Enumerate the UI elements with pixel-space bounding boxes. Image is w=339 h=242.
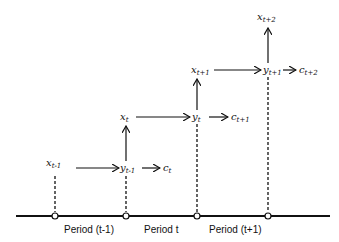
label-x-t+2: xt+2 — [257, 11, 276, 24]
time-point-4 — [265, 213, 271, 219]
label-y-t: yt — [191, 111, 201, 124]
label-y-t-1: yt-1 — [119, 162, 135, 175]
label-x-t: xt — [120, 111, 129, 124]
period-label-t: Period t — [144, 224, 179, 235]
label-x-t+1: xt+1 — [191, 64, 210, 77]
label-c-t+2: ct+2 — [299, 64, 318, 77]
period-label-t+1: Period (t+1) — [209, 224, 262, 235]
period-label-t-1: Period (t-1) — [64, 224, 114, 235]
time-point-3 — [194, 213, 200, 219]
label-y-t+1: yt+1 — [262, 64, 282, 77]
time-point-2 — [123, 213, 129, 219]
label-x-t-1: xt-1 — [46, 157, 61, 170]
period-flow-diagram: xt-1 yt-1 ct xt yt ct+1 xt+1 yt+1 ct+2 x… — [0, 0, 339, 242]
label-c-t+1: ct+1 — [231, 111, 250, 124]
time-point-1 — [52, 213, 58, 219]
label-c-t: ct — [163, 162, 172, 175]
